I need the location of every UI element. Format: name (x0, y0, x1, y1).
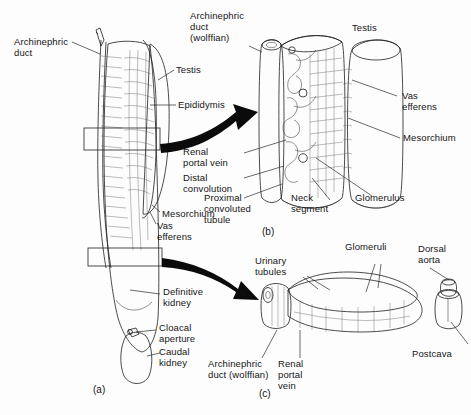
panel-a-leaders (72, 42, 176, 356)
label-archinephric-duct-a: Archinephric duct (14, 36, 68, 58)
label-testis-a: Testis (176, 64, 201, 75)
glomerulus-knot (289, 47, 308, 163)
label-caudal-kidney: Caudal kidney (159, 346, 190, 368)
panel-b-leaders (244, 46, 400, 200)
label-archinephric-duct-wolffian-c-line1: Archinephric (208, 358, 262, 369)
label-renal-portal-vein-c: Renal portal vein (278, 358, 303, 391)
inset-box-c (88, 248, 162, 266)
label-proximal-convoluted-tubule: Proximal convoluted tubule (204, 192, 251, 225)
label-glomeruli: Glomeruli (345, 241, 387, 252)
inset-box-b (84, 128, 160, 150)
panel-c-leaders (262, 264, 468, 358)
label-definitive-kidney: Definitive kidney (163, 286, 203, 308)
label-neck-segment: Neck segment (291, 192, 328, 214)
panel-caption-b: (b) (262, 226, 274, 237)
label-vas-efferens-a: Vas efferens (157, 220, 192, 242)
label-archinephric-duct-wolffian-b: Archinephric duct (wolffian) (190, 10, 244, 43)
anatomical-figure: Archinephric duct Testis Epididymis Meso… (0, 0, 471, 415)
label-cloacal-aperture: Cloacal aperture (159, 322, 195, 344)
panel-caption-c: (c) (259, 388, 271, 399)
vessel-pair (435, 279, 462, 329)
panel-c-artwork (261, 264, 468, 358)
label-mesorchium-b: Mesorchium (403, 132, 456, 143)
label-distal-convolution: Distal convolution (183, 172, 232, 194)
label-vas-efferens-b: Vas efferens (402, 90, 437, 112)
label-postcava: Postcava (412, 348, 452, 359)
label-testis-b: Testis (352, 22, 377, 33)
panel-b-artwork (244, 36, 403, 208)
label-renal-portal-vein-b: Renal portal vein (183, 146, 228, 168)
label-glomerulus: Glomerulus (355, 192, 405, 203)
panel-caption-a: (a) (93, 384, 105, 395)
label-epididymis: Epididymis (178, 99, 225, 110)
label-dorsal-aorta: Dorsal aorta (418, 243, 446, 265)
label-urinary-tubules: Urinary tubules (255, 255, 286, 277)
panel-a-artwork (84, 28, 169, 384)
label-archinephric-duct-wolffian-c-line2: duct (wolffian) (208, 369, 268, 380)
